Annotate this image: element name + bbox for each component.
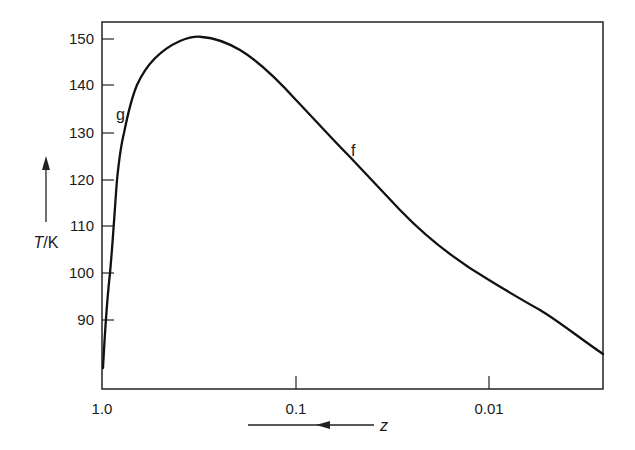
y-axis-tick-labels: 150 140 130 120 110 100 90 (69, 30, 94, 328)
plot-frame (102, 22, 603, 389)
curve-label-g: g (116, 106, 125, 123)
y-tick-90: 90 (77, 311, 94, 328)
x-axis-label-group: z (248, 417, 388, 434)
x-axis-label: z (379, 417, 388, 434)
up-arrow-icon (42, 156, 50, 170)
y-tick-100: 100 (69, 264, 94, 281)
x-tick-0-1: 0.1 (286, 400, 307, 417)
x-tick-0-01: 0.01 (474, 400, 503, 417)
y-tick-110: 110 (70, 217, 94, 234)
y-tick-130: 130 (69, 124, 94, 141)
x-tick-1: 1.0 (92, 400, 113, 417)
y-tick-140: 140 (69, 76, 94, 93)
x-axis-tick-labels: 1.0 0.1 0.01 (92, 400, 504, 417)
y-tick-120: 120 (69, 171, 94, 188)
curve-label-f: f (351, 142, 356, 159)
chart: 150 140 130 120 110 100 90 1.0 0.1 0.01 … (0, 0, 635, 450)
left-arrow-icon (316, 421, 330, 429)
y-tick-150: 150 (69, 30, 94, 47)
curve-t-vs-z (103, 37, 603, 368)
y-axis-label: T/K (34, 234, 59, 251)
y-axis-label-group: T/K (34, 156, 59, 251)
x-axis-ticks (296, 376, 489, 389)
y-axis-ticks (102, 39, 114, 320)
